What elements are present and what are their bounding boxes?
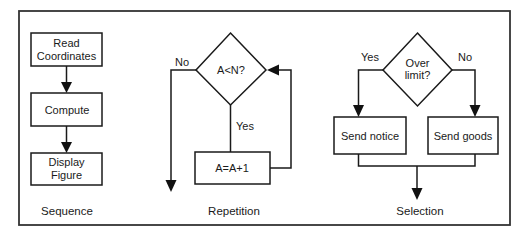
control-structures-diagram: Read Coordinates Compute Display Figure … xyxy=(0,0,526,237)
read-coordinates-label-line1: Read xyxy=(53,37,79,49)
selection-yes-label: Yes xyxy=(361,51,379,63)
repetition-yes-label: Yes xyxy=(236,120,254,132)
sequence-caption: Sequence xyxy=(41,205,93,217)
send-goods-label: Send goods xyxy=(434,130,493,142)
selection-caption: Selection xyxy=(396,205,443,217)
increment-a-label: A=A+1 xyxy=(215,162,249,174)
over-limit-label-line1: Over xyxy=(406,57,430,69)
repetition-no-label: No xyxy=(175,56,189,68)
read-coordinates-label-line2: Coordinates xyxy=(37,50,97,62)
selection-no-label: No xyxy=(458,51,472,63)
display-figure-label-line2: Figure xyxy=(51,169,82,181)
compute-label: Compute xyxy=(45,104,90,116)
a-less-than-n-label: A<N? xyxy=(217,64,245,76)
send-notice-label: Send notice xyxy=(341,130,399,142)
over-limit-label-line2: limit? xyxy=(405,69,431,81)
display-figure-label-line1: Display xyxy=(48,156,85,168)
repetition-caption: Repetition xyxy=(208,205,260,217)
